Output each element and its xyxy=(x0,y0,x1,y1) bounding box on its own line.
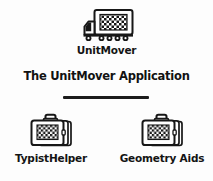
briefcase-icon xyxy=(138,111,186,150)
node-label-unitmover: UnitMover xyxy=(77,45,137,56)
node-unitmover[interactable]: UnitMover xyxy=(0,8,213,56)
truck-icon xyxy=(79,8,135,42)
diagram-canvas: UnitMover The UnitMover Application xyxy=(0,0,213,181)
briefcase-icon xyxy=(27,111,75,150)
node-label-typisthelper: TypistHelper xyxy=(15,153,87,164)
page-title: The UnitMover Application xyxy=(0,69,213,83)
node-geometry-aids[interactable]: Geometry Aids xyxy=(113,111,211,164)
node-label-geometry-aids: Geometry Aids xyxy=(120,153,205,164)
horizontal-rule xyxy=(63,96,149,99)
node-typisthelper[interactable]: TypistHelper xyxy=(2,111,100,164)
